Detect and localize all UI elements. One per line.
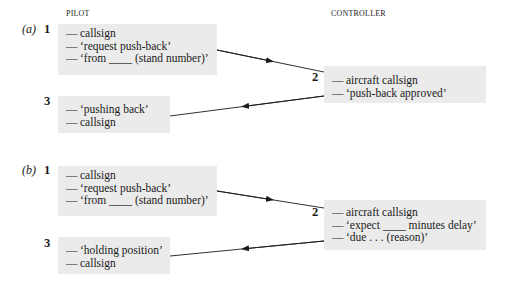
part-b-label: (b): [22, 163, 36, 178]
dash-bullet: —: [66, 194, 80, 207]
part-b-step-2-number: 2: [312, 205, 318, 220]
message-line: callsign: [80, 257, 116, 269]
message-line: ‘pushing back’: [80, 103, 149, 115]
part-b-step-1-pilot-request: —callsign —‘request push-back’ —‘from __…: [58, 166, 217, 216]
dash-bullet: —: [66, 169, 80, 182]
part-b-step-1-number: 1: [44, 163, 50, 178]
part-b-step-3-number: 3: [44, 236, 50, 251]
part-a-step-1-number: 1: [44, 22, 50, 37]
dash-bullet: —: [66, 40, 80, 53]
part-a-step-2-number: 2: [312, 70, 318, 85]
message-line: aircraft callsign: [346, 74, 418, 86]
controller-column-header: CONTROLLER: [331, 9, 386, 18]
message-line: ‘push-back approved’: [346, 87, 447, 99]
arrow-a-pilot-to-controller: [217, 50, 324, 72]
dash-bullet: —: [66, 103, 80, 116]
message-line: ‘holding position’: [80, 244, 163, 256]
dash-bullet: —: [332, 231, 346, 244]
message-line: callsign: [80, 169, 116, 181]
dash-bullet: —: [66, 257, 80, 270]
message-line: ‘request push-back’: [80, 182, 171, 194]
dash-bullet: —: [66, 116, 80, 129]
part-b-step-3-pilot-ack: —‘holding position’ —callsign: [58, 237, 170, 274]
pilot-column-header: PILOT: [66, 9, 90, 18]
message-line: ‘expect ____ minutes delay’: [346, 219, 477, 231]
part-a-step-2-controller-reply: —aircraft callsign —‘push-back approved’: [324, 66, 486, 103]
dash-bullet: —: [66, 182, 80, 195]
part-a-step-1-pilot-request: —callsign —‘request push-back’ —‘from __…: [58, 24, 217, 75]
part-a-step-3-pilot-ack: —‘pushing back’ —callsign: [58, 96, 170, 133]
dash-bullet: —: [66, 244, 80, 257]
dash-bullet: —: [332, 206, 346, 219]
part-a-label: (a): [22, 22, 36, 37]
message-line: ‘from ____ (stand number)’: [80, 52, 209, 64]
arrow-a-controller-to-pilot: [170, 96, 324, 116]
message-line: aircraft callsign: [346, 206, 418, 218]
dash-bullet: —: [66, 52, 80, 65]
message-line: callsign: [80, 116, 116, 128]
arrow-b-pilot-to-controller: [217, 191, 324, 208]
dash-bullet: —: [332, 219, 346, 232]
arrow-b-controller-to-pilot: [170, 241, 324, 256]
message-line: ‘request push-back’: [80, 40, 171, 52]
message-line: ‘due . . . (reason)’: [346, 231, 428, 243]
message-line: ‘from ____ (stand number)’: [80, 194, 209, 206]
dash-bullet: —: [332, 74, 346, 87]
message-line: callsign: [80, 27, 116, 39]
part-a-step-3-number: 3: [44, 94, 50, 109]
dash-bullet: —: [66, 27, 80, 40]
part-b-step-2-controller-reply: —aircraft callsign —‘expect ____ minutes…: [324, 200, 486, 250]
dash-bullet: —: [332, 87, 346, 100]
